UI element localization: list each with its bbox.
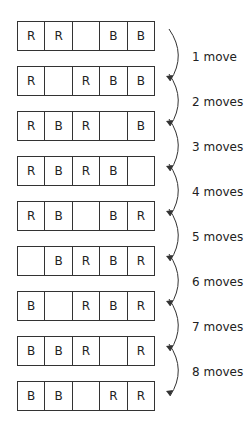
arrow-icon <box>169 74 178 126</box>
arrow-icon <box>169 29 178 81</box>
curved-arrows <box>0 0 252 432</box>
arrow-icon <box>169 209 178 261</box>
arrow-icon <box>169 164 178 216</box>
arrow-icon <box>169 344 178 396</box>
arrow-icon <box>169 119 178 171</box>
arrow-icon <box>169 299 178 351</box>
arrow-icon <box>169 254 178 306</box>
